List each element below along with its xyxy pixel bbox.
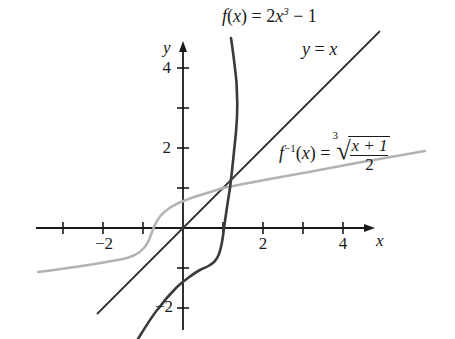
- inverse-variable: x: [302, 143, 310, 163]
- identity-equation-label: y = x: [302, 40, 337, 59]
- x-axis-name: x: [376, 231, 384, 251]
- fraction-denominator: 2: [350, 155, 388, 174]
- x-tick-label-2: 2: [254, 234, 272, 254]
- inverse-close-paren: ): [310, 143, 316, 163]
- identity-rhs: x: [329, 39, 337, 59]
- x-tick-label-4: 4: [334, 234, 352, 254]
- function-minus-sign: −: [293, 6, 303, 26]
- inverse-superscript: −1: [284, 142, 296, 154]
- identity-lhs: y: [302, 39, 310, 59]
- inverse-function-graph-figure: −2 2 4 4 2 −2 y x f(x) = 2x3 − 1 y = x f…: [0, 0, 455, 339]
- function-close-paren: ): [241, 6, 247, 26]
- y-axis-name: y: [163, 38, 171, 58]
- y-tick-label-neg2: −2: [149, 297, 173, 317]
- x-tick-label-neg2: −2: [91, 234, 117, 254]
- function-equals-sign: =: [252, 6, 262, 26]
- function-constant: 1: [308, 6, 317, 26]
- fraction-numerator: x + 1: [350, 137, 388, 155]
- function-exponent: 3: [283, 5, 289, 17]
- function-base-variable: x: [275, 6, 283, 26]
- inverse-equation-label: f−1(x) =3√x + 12: [279, 136, 390, 174]
- y-tick-label-4: 4: [155, 58, 171, 78]
- function-equation-label: f(x) = 2x3 − 1: [222, 6, 317, 26]
- radical-group: 3√x + 12: [332, 136, 390, 174]
- function-coefficient: 2: [266, 6, 275, 26]
- fraction-group: x + 12: [348, 136, 390, 174]
- x-axis: [36, 222, 375, 234]
- identity-equals-sign: =: [315, 39, 325, 59]
- inverse-equals-sign: =: [320, 143, 330, 163]
- y-tick-label-2: 2: [155, 138, 171, 158]
- function-variable: x: [233, 6, 241, 26]
